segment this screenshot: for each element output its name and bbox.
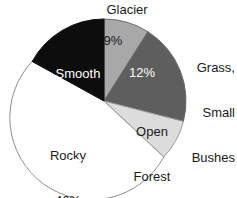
pie-chart-figure: Glacier Grass, Small Bushes 9% 12% Open … [0,0,237,198]
slice-label-smooth-rock-line2: Rock [44,111,112,126]
slice-label-open-forest-line1: Open [124,124,180,139]
slice-label-smooth-rock-line1: Smooth [44,66,112,81]
slice-value-smooth-rock: 17% [44,156,112,171]
slice-label-open-forest: Open Forest 16% [124,94,180,198]
slice-label-glacier: Glacier [92,2,162,17]
slice-value-grass-small-bushes: 12% [122,65,162,80]
slice-label-open-forest-line2: Forest [124,169,180,184]
slice-label-smooth-rock: Smooth Rock 17% [44,36,112,198]
